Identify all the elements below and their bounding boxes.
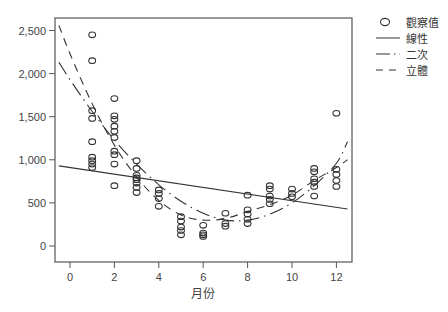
dashed-line-icon — [376, 65, 402, 75]
data-point — [155, 204, 162, 210]
data-point — [311, 193, 318, 199]
quadratic-fit-line — [59, 62, 348, 221]
data-point — [133, 158, 140, 164]
data-point — [89, 165, 96, 171]
data-point — [111, 116, 118, 122]
y-tick-label: 0 — [40, 240, 46, 252]
data-point — [333, 110, 340, 116]
y-tick-label: 2,000 — [18, 68, 46, 80]
data-point — [89, 32, 96, 38]
data-point — [89, 116, 96, 122]
x-tick-label: 2 — [111, 271, 117, 283]
legend-label-linear: 線性 — [406, 30, 428, 46]
cubic-fit-line — [59, 25, 348, 220]
y-tick-label: 1,000 — [18, 154, 46, 166]
x-tick-label: 0 — [67, 271, 73, 283]
plot-frame — [55, 18, 352, 262]
data-point — [200, 223, 207, 229]
plot-border — [55, 18, 352, 262]
data-point — [333, 184, 340, 190]
data-point — [111, 152, 118, 158]
data-point — [222, 210, 229, 216]
x-tick-label: 4 — [156, 271, 162, 283]
open-circle-icon — [376, 17, 402, 27]
legend-label-observed: 觀察值 — [406, 14, 439, 30]
y-tick-label: 1,500 — [18, 111, 46, 123]
data-point — [311, 169, 318, 175]
solid-line-icon — [376, 33, 402, 43]
legend: 觀察值 線性 二次 立體 — [376, 14, 439, 78]
linear-fit-line — [59, 166, 348, 209]
legend-label-cubic: 立體 — [406, 62, 428, 78]
legend-item-linear: 線性 — [376, 30, 439, 46]
y-tick-label: 2,500 — [18, 25, 46, 37]
observed-points — [89, 32, 340, 239]
y-axis: 05001,0001,5002,0002,500 — [18, 25, 55, 253]
x-tick-label: 10 — [286, 271, 298, 283]
data-point — [111, 183, 118, 189]
data-point — [133, 166, 140, 172]
data-point — [244, 192, 251, 198]
data-point — [111, 96, 118, 102]
data-point — [266, 186, 273, 192]
data-point — [89, 58, 96, 64]
data-point — [89, 139, 96, 145]
data-point — [333, 178, 340, 184]
fit-lines — [59, 25, 348, 221]
legend-item-quadratic: 二次 — [376, 46, 439, 62]
legend-label-quadratic: 二次 — [406, 46, 428, 62]
legend-item-cubic: 立體 — [376, 62, 439, 78]
legend-item-observed: 觀察值 — [376, 14, 439, 30]
data-point — [111, 161, 118, 167]
x-tick-label: 8 — [245, 271, 251, 283]
x-tick-label: 12 — [330, 271, 342, 283]
data-point — [111, 135, 118, 141]
x-axis: 024681012 — [67, 262, 343, 283]
y-tick-label: 500 — [28, 197, 46, 209]
x-axis-title: 月份 — [191, 287, 215, 301]
dash-dot-line-icon — [376, 49, 402, 59]
x-tick-label: 6 — [200, 271, 206, 283]
